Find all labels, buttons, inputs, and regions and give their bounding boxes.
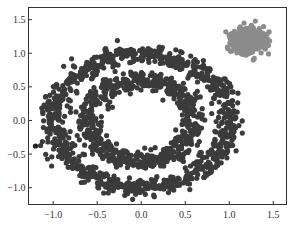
y-tick-label: 0.0: [13, 115, 26, 126]
outliers-series: [33, 143, 38, 148]
x-tick-label: −0.5: [88, 209, 106, 220]
blob-series: [223, 19, 272, 63]
y-tick-label: 1.5: [13, 14, 26, 25]
scatter-chart: −1.0−0.50.00.51.01.5 −1.0−0.50.00.51.01.…: [0, 0, 291, 227]
x-tick-label: 1.0: [223, 209, 236, 220]
y-tick-label: −0.5: [7, 149, 25, 160]
x-tick-label: −1.0: [44, 209, 62, 220]
inner-ring-series: [73, 69, 214, 170]
x-axis: −1.0−0.50.00.51.01.5: [44, 201, 279, 220]
x-tick-label: 1.5: [267, 209, 280, 220]
x-tick-label: 0.5: [179, 209, 192, 220]
y-tick-label: −1.0: [7, 182, 25, 193]
outer-ring-series: [38, 38, 245, 202]
x-tick-label: 0.0: [135, 209, 148, 220]
data-points: [33, 19, 272, 202]
y-tick-label: 0.5: [13, 81, 26, 92]
y-tick-label: 1.0: [13, 48, 26, 59]
